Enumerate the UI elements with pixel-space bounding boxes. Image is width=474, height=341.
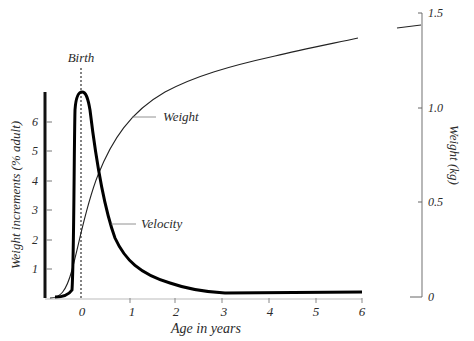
- x-axis-label: Age in years: [170, 321, 242, 336]
- left-y-ticks: [46, 122, 52, 269]
- svg-text:1.0: 1.0: [428, 101, 443, 115]
- svg-text:2: 2: [173, 304, 180, 319]
- left-y-tick-labels: 1 2 3 4 5 6: [31, 115, 38, 276]
- svg-text:0: 0: [79, 304, 86, 319]
- weight-annotation: Weight: [163, 109, 199, 124]
- weight-curve-tail: [397, 25, 421, 28]
- svg-text:5: 5: [32, 144, 38, 158]
- svg-text:6: 6: [32, 115, 38, 129]
- svg-text:0: 0: [428, 290, 434, 304]
- svg-text:1.5: 1.5: [428, 6, 443, 20]
- svg-text:5: 5: [313, 304, 320, 319]
- svg-text:0.5: 0.5: [428, 195, 443, 209]
- birth-label: Birth: [68, 50, 95, 65]
- svg-text:4: 4: [267, 304, 274, 319]
- right-y-axis-label: Weight (kg): [447, 125, 462, 185]
- growth-chart: 1 2 3 4 5 6 Weight increments (% adult) …: [0, 0, 474, 341]
- svg-text:1: 1: [129, 304, 136, 319]
- right-y-ticks: [410, 13, 422, 297]
- svg-text:3: 3: [31, 203, 38, 217]
- svg-text:6: 6: [359, 304, 366, 319]
- svg-text:1: 1: [32, 262, 38, 276]
- svg-text:2: 2: [32, 233, 38, 247]
- right-y-tick-labels: 0 0.5 1.0 1.5: [428, 6, 443, 304]
- velocity-annotation: Velocity: [141, 216, 182, 231]
- x-tick-labels: 0 1 2 3 4 5 6: [79, 304, 366, 319]
- left-y-axis-label: Weight increments (% adult): [8, 121, 23, 269]
- velocity-curve: [55, 92, 362, 297]
- svg-text:3: 3: [220, 304, 228, 319]
- svg-text:4: 4: [32, 174, 38, 188]
- weight-curve: [50, 38, 358, 298]
